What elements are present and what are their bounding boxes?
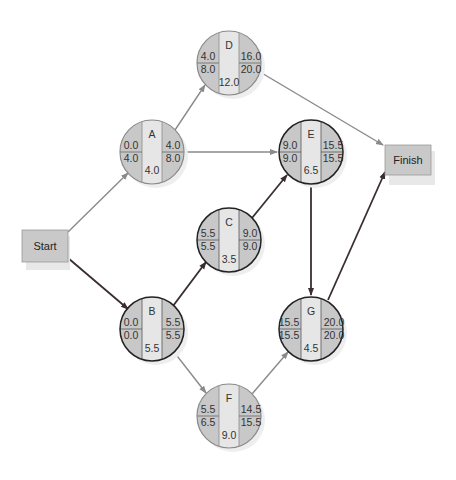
activity-node-c: C 5.5 5.5 9.0 9.0 3.5 [195,206,269,276]
node-id: F [226,392,232,404]
late-start: 4.0 [124,152,139,164]
edge-start-b [68,258,128,309]
activity-node-b: B 0.0 0.0 5.5 5.5 5.5 [118,295,192,365]
early-start: 15.5 [279,316,300,328]
duration: 9.0 [222,429,237,441]
late-start: 5.5 [201,240,216,252]
edge-b-f [174,352,206,393]
early-start: 9.0 [283,139,298,151]
edge-start-a [68,173,128,232]
late-start: 0.0 [124,329,139,341]
activity-node-a: A 0.0 4.0 4.0 8.0 4.0 [118,118,192,188]
late-finish: 9.0 [243,240,258,252]
duration: 3.5 [222,253,237,265]
start-label: Start [33,240,56,252]
duration: 12.0 [219,76,240,88]
activity-node-e: E 9.0 9.0 15.5 15.5 6.5 [277,118,351,188]
node-id: D [225,39,233,51]
early-start: 0.0 [124,316,139,328]
late-finish: 8.0 [166,152,181,164]
early-finish: 14.5 [241,403,262,415]
late-start: 15.5 [279,329,300,341]
finish-node: Finish [385,145,435,185]
late-start: 9.0 [283,152,298,164]
early-finish: 4.0 [166,139,181,151]
edge-a-d [175,85,205,130]
late-finish: 15.5 [241,416,262,428]
early-start: 0.0 [124,139,139,151]
early-finish: 15.5 [323,139,344,151]
finish-label: Finish [393,154,422,166]
early-finish: 5.5 [166,316,181,328]
late-finish: 20.0 [241,63,262,75]
node-id: B [148,305,155,317]
late-start: 6.5 [201,416,216,428]
activity-node-d: D 4.0 8.0 16.0 20.0 12.0 [195,29,269,99]
duration: 4.5 [304,342,319,354]
node-id: A [148,128,155,140]
edge-f-g [252,352,288,394]
edge-b-c [173,262,206,306]
node-id: C [225,216,233,228]
late-finish: 15.5 [323,152,344,164]
start-node: Start [22,230,70,270]
node-id: G [307,305,315,317]
duration: 6.5 [304,164,319,176]
edge-c-e [252,175,287,218]
early-finish: 16.0 [241,50,262,62]
activity-node-g: G 15.5 15.5 20.0 20.0 4.5 [277,295,351,365]
late-finish: 5.5 [166,329,181,341]
late-start: 8.0 [201,63,216,75]
duration: 5.5 [145,342,160,354]
network-diagram: Start Finish A 0.0 4.0 4.0 8.0 4.0 [0,0,456,480]
early-finish: 20.0 [324,316,345,328]
early-finish: 9.0 [243,227,258,239]
late-finish: 20.0 [324,329,345,341]
edge-g-finish [328,172,385,300]
early-start: 5.5 [201,403,216,415]
early-start: 5.5 [201,227,216,239]
node-id: E [307,128,314,140]
early-start: 4.0 [201,50,216,62]
duration: 4.0 [145,164,160,176]
